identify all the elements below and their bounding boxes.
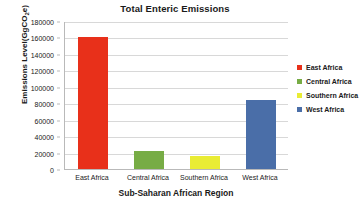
y-axis-tick-mark [57, 71, 60, 72]
y-axis-tick-mark [57, 22, 60, 23]
plot-area [64, 22, 288, 170]
y-axis-tick-label: 80000 [35, 101, 54, 108]
x-axis-title: Sub-Saharan African Region [64, 188, 288, 198]
y-axis-tick-label: 160000 [31, 35, 54, 42]
y-axis-title-prefix: Emissions Level(GgCO [20, 16, 29, 104]
legend-swatch-icon [297, 107, 302, 112]
bar-central-africa[interactable] [134, 151, 164, 169]
y-axis-tick-mark [57, 54, 60, 55]
x-axis-tick-label: Southern Africa [176, 174, 232, 181]
y-axis-tick-mark [57, 120, 60, 121]
legend-swatch-icon [297, 79, 302, 84]
y-axis-tick-label: 40000 [35, 134, 54, 141]
legend-item-label: Central Africa [306, 78, 352, 85]
y-axis-title-subscript: 2 [23, 12, 29, 15]
legend-swatch-icon [297, 65, 302, 70]
y-axis-tick-mark [57, 104, 60, 105]
bar-west-africa[interactable] [246, 100, 276, 169]
x-axis-tick-label: East Africa [64, 174, 120, 181]
bar-southern-africa[interactable] [190, 156, 220, 169]
legend-item-east-africa[interactable]: East Africa [297, 60, 358, 74]
y-axis-title: Emissions Level(GgCO2e) [20, 0, 29, 125]
legend-item-southern-africa[interactable]: Southern Africa [297, 88, 358, 102]
y-axis-tick-label: 100000 [31, 84, 54, 91]
chart-title: Total Enteric Emissions [60, 3, 290, 14]
legend-item-west-africa[interactable]: West Africa [297, 102, 358, 116]
legend-swatch-icon [297, 93, 302, 98]
y-axis-tick-label: 120000 [31, 68, 54, 75]
legend-item-label: West Africa [306, 106, 344, 113]
y-axis-tick-label: 0 [50, 167, 54, 174]
bar-east-africa[interactable] [78, 37, 108, 169]
y-axis-tick-label: 60000 [35, 117, 54, 124]
bar-chart-figure: Total Enteric Emissions 0200004000060000… [0, 0, 364, 207]
y-axis-tick-label: 140000 [31, 51, 54, 58]
legend-item-central-africa[interactable]: Central Africa [297, 74, 358, 88]
y-axis-tick-labels: 0200004000060000800001000001200001400001… [0, 22, 60, 170]
gridline [65, 22, 288, 23]
y-axis-tick-mark [57, 170, 60, 171]
y-axis-tick-mark [57, 87, 60, 88]
x-axis-tick-label: Central Africa [120, 174, 176, 181]
y-axis-tick-label: 180000 [31, 19, 54, 26]
y-axis-tick-mark [57, 137, 60, 138]
x-axis-tick-label: West Africa [232, 174, 288, 181]
legend-item-label: Southern Africa [306, 92, 358, 99]
y-axis-tick-mark [57, 153, 60, 154]
legend-item-label: East Africa [306, 64, 342, 71]
y-axis-tick-label: 20000 [35, 150, 54, 157]
y-axis-title-suffix: e) [20, 5, 29, 12]
y-axis-tick-mark [57, 38, 60, 39]
chart-legend: East AfricaCentral AfricaSouthern Africa… [297, 60, 358, 116]
